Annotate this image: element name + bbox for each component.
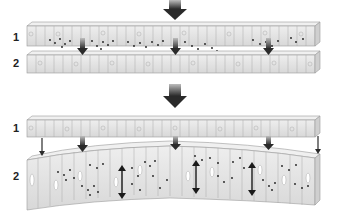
big-arrow-top-icon	[163, 0, 187, 20]
epithelium-diagram	[0, 0, 349, 224]
cell-layer-bottom-1	[27, 116, 320, 137]
signal-thin-arrow-right-icon	[315, 136, 321, 154]
cell-layer-bottom-2	[27, 141, 320, 210]
big-arrow-middle-icon	[163, 84, 187, 108]
cell-layer-top-2	[27, 51, 320, 73]
